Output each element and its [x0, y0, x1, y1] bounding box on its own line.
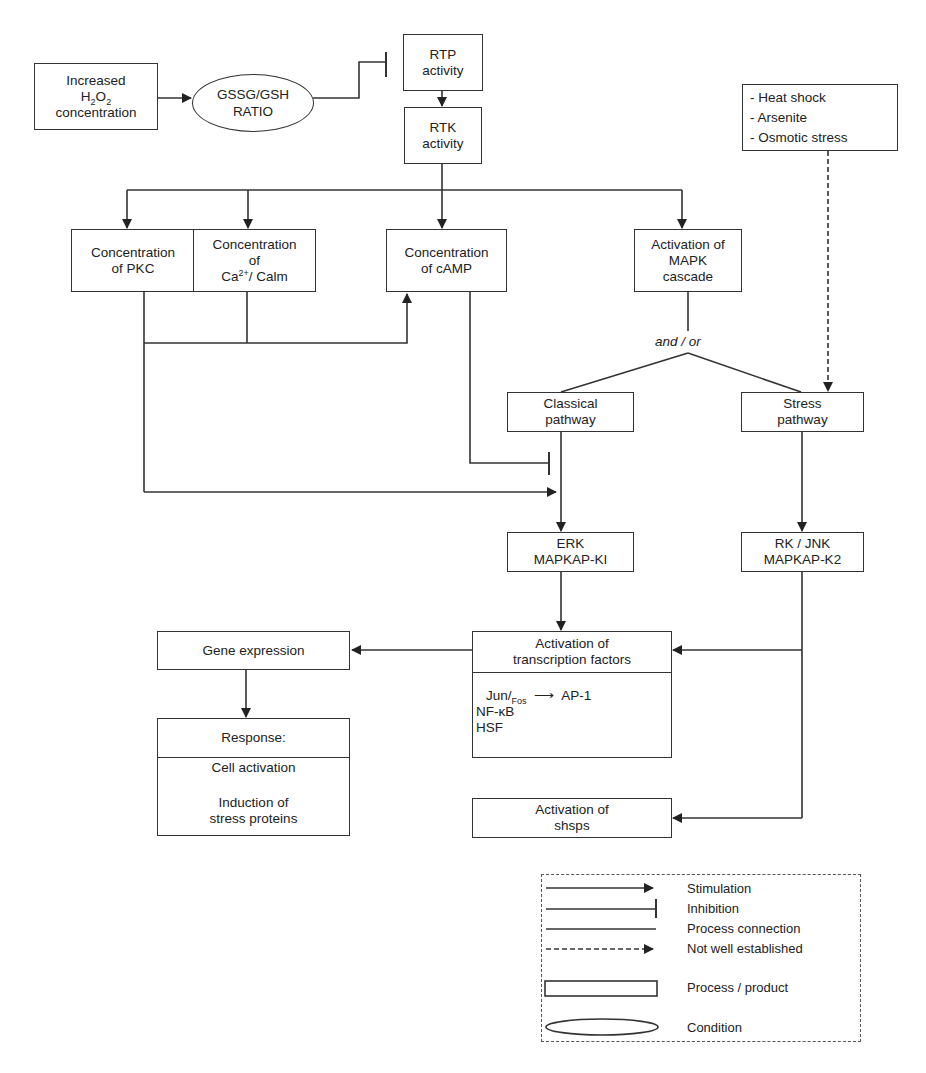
node-text: Concentration: [404, 245, 488, 261]
node-text: of PKC: [112, 261, 155, 277]
node-increased-h2o2: Increased H2O2 concentration: [34, 63, 158, 130]
node-transcription-factors: Activation of transcription factors Jun/…: [472, 631, 672, 758]
ca-calm-text: Ca2+/ Calm: [221, 269, 288, 285]
legend-condition: Condition: [687, 1021, 742, 1035]
node-text: ERK: [557, 536, 585, 552]
node-rk-jnk-mapkap-k2: RK / JNK MAPKAP-K2: [741, 532, 864, 572]
node-text: of: [249, 253, 260, 269]
node-text: GSSG/GSH: [217, 86, 289, 103]
tf-nfkb: NF-κB: [476, 704, 671, 720]
node-text: MAPKAP-KI: [534, 552, 608, 568]
arrow-icon: ⟶: [534, 688, 554, 703]
node-text: Gene expression: [202, 643, 304, 659]
node-text: Activation of: [535, 802, 609, 818]
response-stress-proteins: stress proteins: [158, 811, 349, 827]
h2o2-formula: H2O2: [81, 89, 111, 105]
node-text: activity: [422, 63, 463, 79]
node-text: RTP: [430, 47, 457, 63]
node-rtk-activity: RTK activity: [404, 107, 482, 164]
node-text: Stress: [783, 396, 821, 412]
node-concentration-camp: Concentration of cAMP: [386, 229, 507, 292]
node-concentration-pkc: Concentration of PKC: [71, 229, 195, 292]
response-header: Response:: [158, 719, 349, 758]
node-text: pathway: [777, 412, 827, 428]
node-classical-pathway: Classical pathway: [507, 392, 634, 432]
node-activation-shsps: Activation of shsps: [472, 798, 672, 838]
response-induction: Induction of: [158, 795, 349, 811]
legend: Stimulation Inhibition Process connectio…: [541, 874, 861, 1042]
node-text: MAPKAP-K2: [764, 552, 841, 568]
node-text: RK / JNK: [775, 536, 831, 552]
node-text: of cAMP: [421, 261, 472, 277]
node-text: activity: [422, 136, 463, 152]
tf-hsf: HSF: [476, 720, 671, 736]
node-stress-pathway: Stress pathway: [741, 392, 864, 432]
node-stress-inducers: - Heat shock - Arsenite - Osmotic stress: [742, 84, 898, 151]
legend-inhibition: Inhibition: [687, 902, 739, 916]
response-list: Cell activation Induction of stress prot…: [158, 758, 349, 827]
legend-not-well-established: Not well established: [687, 942, 803, 956]
node-concentration-ca-calm: Concentration of Ca2+/ Calm: [193, 229, 316, 292]
node-text: Concentration: [91, 245, 175, 261]
jun-fos-ap1: Jun/Fos ⟶ AP-1: [476, 688, 671, 704]
node-text: MAPK: [669, 253, 707, 269]
node-text: Classical: [543, 396, 597, 412]
node-text: Activation of: [535, 636, 609, 652]
transcription-factors-header: Activation of transcription factors: [473, 632, 671, 673]
node-text: Concentration: [212, 237, 296, 253]
node-text: cascade: [663, 269, 713, 285]
node-text: RATIO: [233, 103, 273, 120]
node-response: Response: Cell activation Induction of s…: [157, 718, 350, 836]
legend-process-product: Process / product: [687, 981, 788, 995]
node-text: shsps: [554, 818, 589, 834]
and-or-label: and / or: [655, 334, 701, 349]
node-erk-mapkap-k1: ERK MAPKAP-KI: [507, 532, 634, 572]
inhibition-line-gssg-rtp: [313, 62, 386, 98]
inducer-heat-shock: - Heat shock: [750, 88, 826, 108]
node-text: concentration: [55, 105, 136, 121]
inducer-arsenite: - Arsenite: [750, 108, 807, 128]
transcription-factors-list: Jun/Fos ⟶ AP-1 NF-κB HSF: [473, 673, 671, 736]
node-text: transcription factors: [513, 652, 631, 668]
legend-process-connection: Process connection: [687, 922, 800, 936]
legend-stimulation: Stimulation: [687, 882, 751, 896]
node-text: Increased: [66, 73, 125, 89]
node-text: pathway: [545, 412, 595, 428]
node-text: Activation of: [651, 237, 725, 253]
node-rtp-activity: RTP activity: [403, 34, 483, 91]
condition-gssg-gsh-ratio: GSSG/GSH RATIO: [192, 74, 314, 132]
node-mapk-cascade: Activation of MAPK cascade: [634, 229, 742, 292]
node-text: RTK: [430, 120, 457, 136]
inducer-osmotic-stress: - Osmotic stress: [750, 128, 848, 148]
response-cell-activation: Cell activation: [158, 760, 349, 776]
node-gene-expression: Gene expression: [157, 631, 350, 670]
